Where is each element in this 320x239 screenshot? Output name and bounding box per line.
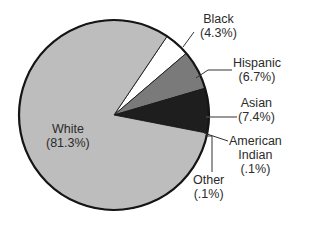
label-asian-pct: (7.4%): [238, 110, 275, 124]
label-other-name: Other: [193, 173, 224, 187]
label-american-indian: American Indian (.1%): [229, 134, 282, 176]
leader-line-american-indian: [204, 133, 228, 141]
label-asian: Asian (7.4%): [238, 96, 275, 124]
leader-line-black: [183, 32, 194, 47]
label-white-name: White: [46, 122, 90, 136]
label-asian-name: Asian: [238, 96, 275, 110]
label-black-pct: (4.3%): [200, 26, 237, 40]
label-black: Black (4.3%): [200, 12, 237, 40]
label-american-indian-line2: Indian: [229, 148, 282, 162]
label-other-pct: (.1%): [193, 187, 224, 201]
label-white: White (81.3%): [46, 122, 90, 150]
label-hispanic-name: Hispanic: [233, 56, 281, 70]
label-hispanic: Hispanic (6.7%): [233, 56, 281, 84]
label-hispanic-pct: (6.7%): [233, 70, 281, 84]
label-american-indian-pct: (.1%): [229, 162, 282, 176]
label-black-name: Black: [200, 12, 237, 26]
label-white-pct: (81.3%): [46, 136, 90, 150]
label-other: Other (.1%): [193, 173, 224, 201]
label-american-indian-line1: American: [229, 134, 282, 148]
